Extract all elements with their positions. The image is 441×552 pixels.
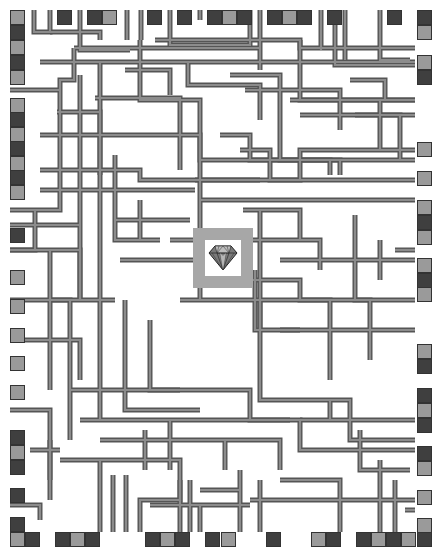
edge-tile-left-light[interactable]: [10, 98, 25, 113]
edge-tile-left-light[interactable]: [10, 127, 25, 142]
pipe-core: [100, 440, 280, 470]
edge-tile-right-light[interactable]: [417, 55, 432, 70]
pipe-segment: [280, 480, 340, 532]
pipe-segment: [350, 80, 415, 100]
edge-tile-left-dark[interactable]: [10, 430, 25, 445]
edge-tile-top-dark[interactable]: [57, 10, 72, 25]
pipe-segment: [80, 420, 415, 450]
edge-tile-bottom-dark[interactable]: [145, 532, 160, 547]
edge-tile-right-light[interactable]: [417, 461, 432, 476]
edge-tile-bottom-dark[interactable]: [55, 532, 70, 547]
pipe-core: [150, 320, 290, 420]
pipe-segment: [125, 70, 170, 95]
edge-tile-bottom-dark[interactable]: [25, 532, 40, 547]
diamond-icon: [208, 245, 238, 271]
edge-tile-top-dark[interactable]: [297, 10, 312, 25]
edge-tile-top-dark[interactable]: [147, 10, 162, 25]
edge-tile-top-light[interactable]: [10, 10, 25, 25]
pipe-segment: [60, 460, 180, 532]
edge-tile-bottom-dark[interactable]: [175, 532, 190, 547]
edge-tile-right-light[interactable]: [417, 518, 432, 533]
edge-tile-right-light[interactable]: [417, 490, 432, 505]
edge-tile-bottom-light[interactable]: [311, 532, 326, 547]
edge-tile-right-dark[interactable]: [417, 418, 432, 433]
pipe-core: [280, 480, 340, 532]
edge-tile-right-dark[interactable]: [417, 388, 432, 403]
edge-tile-top-dark[interactable]: [417, 10, 432, 25]
edge-tile-top-dark[interactable]: [387, 10, 402, 25]
edge-tile-left-light[interactable]: [10, 270, 25, 285]
edge-tile-bottom-dark[interactable]: [266, 532, 281, 547]
edge-tile-bottom-dark[interactable]: [356, 532, 371, 547]
goal-frame: [193, 228, 253, 288]
edge-tile-left-light[interactable]: [10, 156, 25, 171]
pipe-core: [125, 300, 200, 410]
edge-tile-bottom-light[interactable]: [221, 532, 236, 547]
edge-tile-right-light[interactable]: [417, 230, 432, 245]
edge-tile-top-dark[interactable]: [237, 10, 252, 25]
edge-tile-left-light[interactable]: [10, 445, 25, 460]
edge-tile-right-light[interactable]: [417, 25, 432, 40]
edge-tile-right-light[interactable]: [417, 200, 432, 215]
edge-tile-bottom-dark[interactable]: [326, 532, 341, 547]
pipe-segment: [150, 320, 290, 420]
edge-tile-left-dark[interactable]: [10, 141, 25, 156]
edge-tile-left-light[interactable]: [10, 328, 25, 343]
edge-tile-right-dark[interactable]: [417, 70, 432, 85]
edge-tile-bottom-dark[interactable]: [386, 532, 401, 547]
goal-cell[interactable]: [205, 240, 241, 276]
edge-tile-right-dark[interactable]: [417, 273, 432, 288]
edge-tile-bottom-light[interactable]: [70, 532, 85, 547]
edge-tile-right-light[interactable]: [417, 258, 432, 273]
edge-tile-bottom-light[interactable]: [371, 532, 386, 547]
pipe-segment: [100, 440, 280, 470]
pipe-segment: [195, 150, 415, 180]
pipe-core: [220, 135, 330, 175]
edge-tile-right-dark[interactable]: [417, 359, 432, 374]
edge-tile-left-light[interactable]: [10, 185, 25, 200]
edge-tile-right-light[interactable]: [417, 287, 432, 302]
edge-tile-right-light[interactable]: [417, 344, 432, 359]
pipe-core: [230, 280, 370, 360]
edge-tile-right-light[interactable]: [417, 142, 432, 157]
edge-tile-left-dark[interactable]: [10, 25, 25, 40]
pipe-core: [60, 460, 180, 532]
pipe-segment: [220, 135, 330, 175]
edge-tile-top-light[interactable]: [222, 10, 237, 25]
edge-tile-left-dark[interactable]: [10, 228, 25, 243]
edge-tile-bottom-light[interactable]: [160, 532, 175, 547]
edge-tile-right-dark[interactable]: [417, 215, 432, 230]
edge-tile-left-dark[interactable]: [10, 170, 25, 185]
edge-tile-bottom-light[interactable]: [10, 532, 25, 547]
edge-tile-bottom-dark[interactable]: [85, 532, 100, 547]
edge-tile-right-light[interactable]: [417, 403, 432, 418]
pipe-core: [80, 420, 415, 450]
edge-tile-left-light[interactable]: [10, 299, 25, 314]
edge-tile-top-light[interactable]: [282, 10, 297, 25]
edge-tile-left-dark[interactable]: [10, 488, 25, 503]
edge-tile-left-dark[interactable]: [10, 112, 25, 127]
pipe-core: [195, 150, 415, 180]
edge-tile-top-dark[interactable]: [207, 10, 222, 25]
edge-tile-left-light[interactable]: [10, 356, 25, 371]
pipe-segment: [50, 32, 100, 40]
edge-tile-bottom-light[interactable]: [401, 532, 416, 547]
edge-tile-left-light[interactable]: [10, 70, 25, 85]
edge-tile-bottom-dark[interactable]: [205, 532, 220, 547]
edge-tile-top-dark[interactable]: [87, 10, 102, 25]
edge-tile-bottom-dark[interactable]: [417, 532, 432, 547]
game-board: [0, 0, 441, 552]
edge-tile-top-dark[interactable]: [267, 10, 282, 25]
edge-tile-top-dark[interactable]: [327, 10, 342, 25]
edge-tile-right-dark[interactable]: [417, 446, 432, 461]
edge-tile-left-dark[interactable]: [10, 55, 25, 70]
edge-tile-left-dark[interactable]: [10, 460, 25, 475]
edge-tile-top-dark[interactable]: [177, 10, 192, 25]
pipe-core: [125, 70, 170, 95]
edge-tile-left-light[interactable]: [10, 40, 25, 55]
edge-tile-top-light[interactable]: [102, 10, 117, 25]
edge-tile-left-dark[interactable]: [10, 517, 25, 532]
pipe-segment: [34, 10, 50, 32]
edge-tile-left-light[interactable]: [10, 385, 25, 400]
edge-tile-right-light[interactable]: [417, 171, 432, 186]
